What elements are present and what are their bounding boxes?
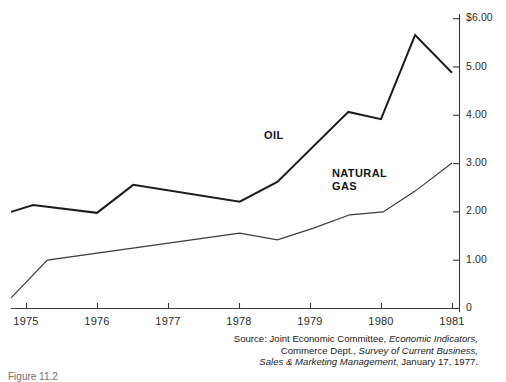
axes-group (11, 14, 460, 312)
x-axis-tick-label: 1980 (368, 315, 393, 327)
x-axis-tick-label: 1981 (439, 315, 464, 327)
y-axis-tick-label: 4.00 (466, 108, 487, 120)
source-italic-sales-marketing-management: Sales & Marketing Management (259, 356, 396, 367)
x-axis-tick-label: 1978 (226, 315, 251, 327)
x-axis-tick-label: 1975 (13, 315, 38, 327)
y-axis-tick-label: 2.00 (466, 204, 487, 216)
y-axis-tick-label: 1.00 (466, 253, 487, 265)
series-label-oil: OIL (264, 129, 284, 142)
y-axis-tick-label: 0 (466, 301, 472, 313)
y-tick-marks (453, 19, 460, 309)
source-date: , January 17, 1977. (396, 356, 478, 367)
source-commerce-dept: Commerce Dept., (281, 345, 359, 356)
source-italic-economic-indicators: Economic Indicators, (389, 333, 478, 344)
source-prefix: Source: Joint Economic Committee, (234, 333, 389, 344)
source-attribution: Source: Joint Economic Committee, Econom… (178, 333, 478, 368)
source-line-2: Commerce Dept., Survey of Current Busine… (178, 345, 478, 357)
source-line-1: Source: Joint Economic Committee, Econom… (178, 333, 478, 345)
y-axis-tick-label: 3.00 (466, 156, 487, 168)
x-axis-tick-label: 1979 (297, 315, 322, 327)
source-line-3: Sales & Marketing Management, January 17… (178, 356, 478, 368)
x-axis-tick-label: 1976 (84, 315, 109, 327)
y-axis-tick-label: 5.00 (466, 60, 487, 72)
source-italic-survey-current-business: Survey of Current Business, (359, 345, 478, 356)
figure-caption: Figure 11.2 (8, 371, 58, 382)
x-tick-marks (27, 303, 453, 309)
y-axis-tick-label: $6.00 (466, 11, 493, 23)
series-label-natural-gas: NATURAL GAS (332, 167, 387, 193)
x-axis-tick-label: 1977 (155, 315, 180, 327)
